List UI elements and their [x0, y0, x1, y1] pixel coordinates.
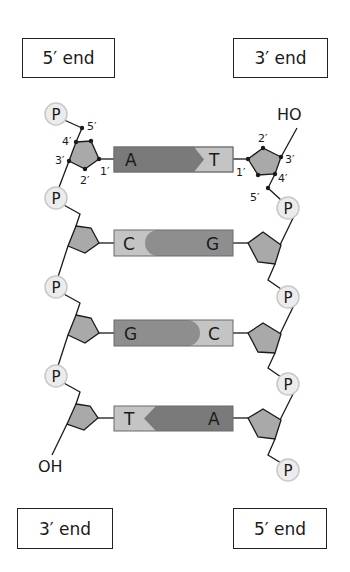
svg-text:P: P: [283, 376, 292, 394]
svg-text:P: P: [283, 200, 292, 218]
svg-text:P: P: [51, 190, 60, 208]
svg-text:2′: 2′: [80, 174, 90, 187]
svg-text:3′: 3′: [285, 153, 295, 166]
svg-text:2′: 2′: [258, 132, 268, 145]
left-terminal-oh: OH: [38, 457, 63, 476]
phosphate-icon: P: [45, 187, 67, 209]
sugar-pentagon-icon: [248, 148, 281, 175]
svg-text:P: P: [283, 289, 292, 307]
svg-text:4′: 4′: [62, 135, 72, 148]
right-phosphates: P P P P: [277, 197, 299, 481]
svg-text:5′: 5′: [250, 191, 260, 204]
base-pair-a-t: A T: [114, 147, 233, 172]
sugar-pentagon-icon: [68, 315, 99, 343]
svg-text:1′: 1′: [100, 165, 110, 178]
svg-text:P: P: [283, 462, 292, 480]
sugar-pentagon-icon: [248, 232, 281, 264]
base-label-right: A: [208, 409, 220, 429]
base-pair-g-c: G C: [114, 320, 233, 346]
sugar-pentagon-icon: [248, 323, 281, 353]
glycosidic-bonds: [98, 159, 248, 418]
base-label-left: A: [125, 150, 137, 170]
svg-text:P: P: [51, 368, 60, 386]
svg-text:P: P: [51, 106, 60, 124]
sugar-pentagon-icon: [69, 141, 99, 169]
svg-text:4′: 4′: [278, 172, 288, 185]
base-label-left: C: [123, 234, 135, 254]
phosphate-icon: P: [277, 373, 299, 395]
phosphate-icon: P: [277, 459, 299, 481]
phosphate-icon: P: [45, 365, 67, 387]
phosphate-icon: P: [277, 286, 299, 308]
base-label-left: T: [123, 409, 135, 429]
phosphate-icon: P: [45, 103, 67, 125]
base-label-right: C: [208, 324, 220, 344]
sugar-pentagon-icon: [67, 404, 98, 430]
base-pair-c-g: C G: [114, 230, 233, 256]
phosphate-icon: P: [277, 197, 299, 219]
base-label-left: G: [124, 324, 137, 344]
svg-text:5′: 5′: [87, 120, 97, 133]
base-pair-t-a: T A: [114, 406, 233, 431]
svg-text:P: P: [51, 279, 60, 297]
base-label-right: G: [206, 234, 219, 254]
sugar-pentagon-icon: [248, 409, 281, 439]
svg-text:1′: 1′: [236, 166, 246, 179]
svg-text:3′: 3′: [55, 154, 65, 167]
phosphate-icon: P: [45, 276, 67, 298]
dna-double-strand-diagram: A T C G G C T A P P P: [0, 0, 350, 572]
right-terminal-ho: HO: [277, 105, 302, 124]
sugar-pentagon-icon: [68, 226, 99, 253]
base-label-right: T: [208, 150, 220, 170]
